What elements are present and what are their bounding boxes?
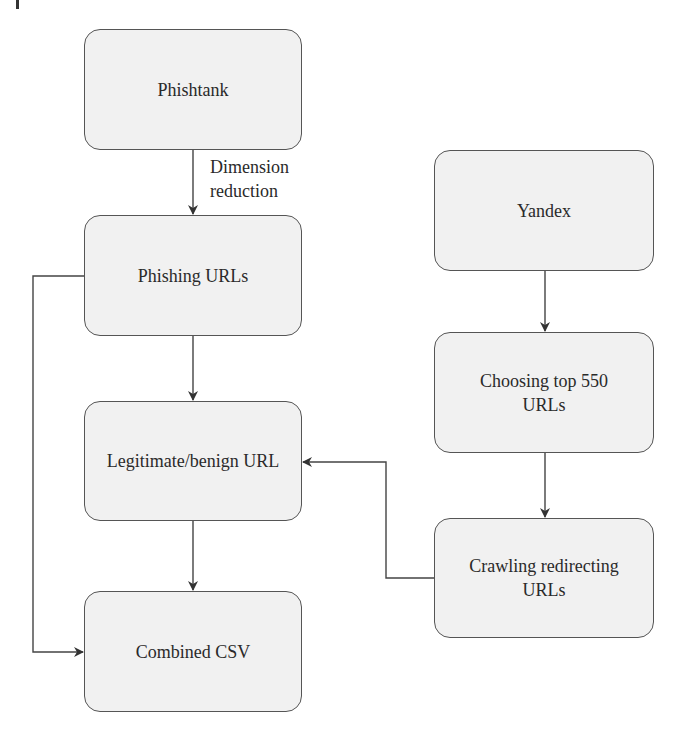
node-crawling-redirecting: Crawling redirecting URLs [434,518,654,638]
edge-label-line2: reduction [210,179,289,203]
node-legitimate-benign-url: Legitimate/benign URL [84,401,302,521]
node-label: Combined CSV [136,640,251,664]
node-yandex: Yandex [434,150,654,271]
node-phishing-urls: Phishing URLs [84,215,302,336]
node-label: Phishing URLs [138,264,249,288]
node-label: Phishtank [157,78,228,102]
node-combined-csv: Combined CSV [84,591,302,712]
edge-label-dimension-reduction: Dimension reduction [210,155,289,203]
edge-crawling-legitimate [303,462,434,578]
edge-phishing-combined [33,276,84,652]
node-label: Legitimate/benign URL [107,449,279,473]
edge-label-line1: Dimension [210,155,289,179]
node-label: Yandex [517,199,571,223]
node-phishtank: Phishtank [84,29,302,150]
node-label: Crawling redirecting URLs [455,554,633,602]
node-choosing-top-550: Choosing top 550 URLs [434,332,654,453]
node-label: Choosing top 550 URLs [461,369,627,417]
